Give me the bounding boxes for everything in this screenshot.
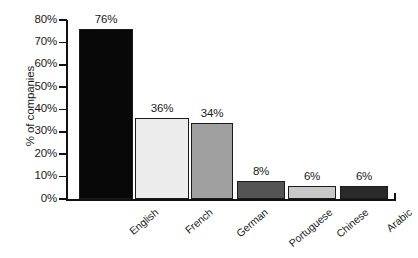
x-axis-label-chinese: Chinese [334, 206, 371, 240]
x-axis-label-english: English [127, 206, 161, 237]
y-axis-tick-70 [59, 42, 67, 44]
y-axis-tick-20 [59, 153, 67, 155]
y-axis-tick-10 [59, 176, 67, 178]
y-axis-tick-0 [59, 198, 67, 200]
x-axis-label-german: German [234, 206, 270, 239]
y-axis-tick-50 [59, 86, 67, 88]
x-axis-label-arabic: Arabic [384, 206, 414, 234]
x-axis-label-portuguese: Portuguese [286, 206, 334, 249]
y-axis-tick-40 [59, 109, 67, 111]
y-axis-tick-80 [59, 19, 67, 21]
y-axis-tick-60 [59, 64, 67, 66]
y-axis-tick-30 [59, 131, 67, 133]
x-axis-label-french: French [183, 206, 215, 236]
bar-chart: % of companies 0%10%20%30%40%50%60%70%80… [0, 0, 418, 258]
x-axis-category-labels-layer: EnglishFrenchGermanPortugueseChineseArab… [0, 0, 418, 258]
